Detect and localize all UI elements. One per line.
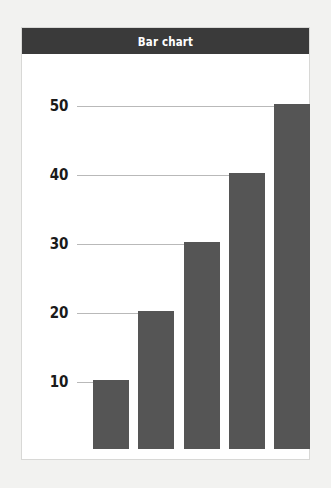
bar[interactable] <box>184 242 220 449</box>
bar[interactable] <box>93 380 129 449</box>
chart-title-bar: Bar chart <box>22 28 309 54</box>
bars-layer <box>22 54 309 459</box>
bar[interactable] <box>138 311 174 449</box>
chart-title: Bar chart <box>138 34 193 49</box>
plot-area: 5040302010 <box>22 54 309 459</box>
bar[interactable] <box>229 173 265 449</box>
bar[interactable] <box>274 104 310 449</box>
chart-card: Bar chart 5040302010 <box>21 27 310 460</box>
